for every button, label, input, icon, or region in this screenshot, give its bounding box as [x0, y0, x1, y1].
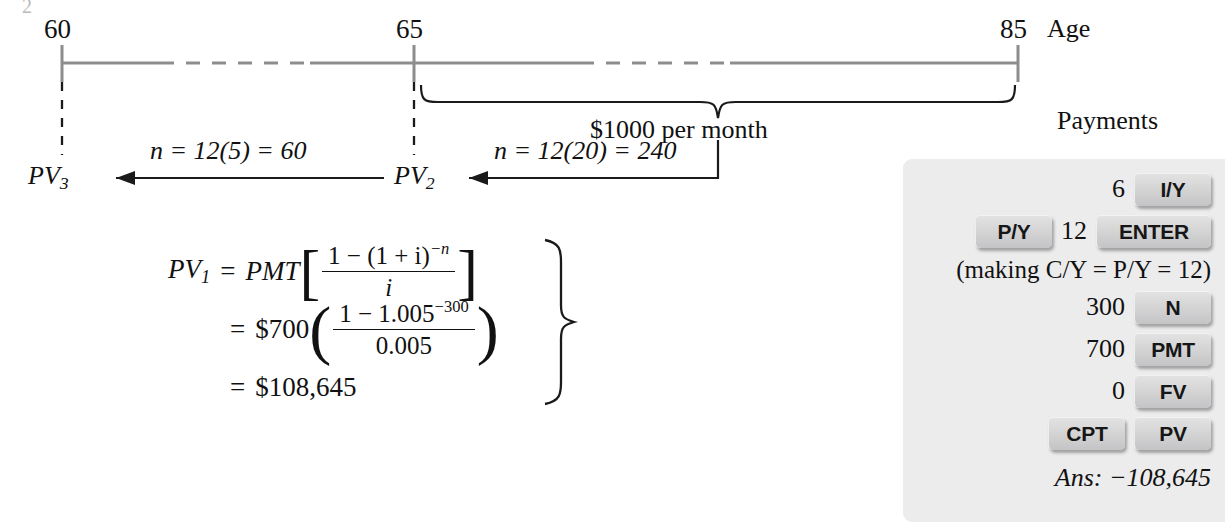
- fraction-1-numerator: 1 − (1 + i)−n: [322, 240, 455, 272]
- pv3-subscript: 3: [60, 173, 69, 193]
- calc-key-fv[interactable]: FV: [1134, 375, 1211, 408]
- calc-key-pmt[interactable]: PMT: [1134, 333, 1211, 366]
- calculator-rows: 6 I/Y P/Y 12 ENTER (making C/Y = P/Y = 1…: [956, 171, 1211, 491]
- tick-label-65: 65: [396, 16, 423, 43]
- formula-line-1: PV1 = PMT [ 1 − (1 + i)−n i ]: [168, 243, 499, 299]
- pv2-subscript: 2: [426, 173, 435, 193]
- formula-coefficient: $700: [255, 314, 309, 345]
- formula-line-2: = $700 ( 1 − 1.005−300 0.005 ): [168, 301, 499, 357]
- annotation-n-60: n = 12(5) = 60: [150, 138, 306, 164]
- formula-eq-1: =: [210, 256, 245, 287]
- arrow-to-pv2-head: [469, 171, 488, 185]
- formula-fraction-1: 1 − (1 + i)−n i: [322, 240, 455, 302]
- payments-label: Payments: [1057, 108, 1158, 134]
- formula-eq-2: =: [230, 314, 255, 345]
- fraction-2-numerator-text: 1 − 1.005: [339, 300, 434, 327]
- formula-brace: [545, 240, 574, 404]
- calc-value-n: 300: [1086, 294, 1125, 320]
- calc-note: (making C/Y = P/Y = 12): [956, 255, 1211, 283]
- fraction-2-denominator: 0.005: [370, 330, 438, 360]
- fraction-1-numerator-text: 1 − (1 + i): [328, 242, 430, 269]
- pv2-label: PV2: [394, 163, 435, 193]
- calc-value-pmt: 700: [1086, 336, 1125, 362]
- calc-key-iy[interactable]: I/Y: [1134, 173, 1211, 206]
- calc-row-pmt: 700 PMT: [1086, 331, 1211, 367]
- fraction-2-numerator: 1 − 1.005−300: [333, 298, 474, 330]
- calc-key-cpt[interactable]: CPT: [1048, 417, 1125, 450]
- formula-line-3: = $108,645: [168, 359, 499, 415]
- calc-key-py[interactable]: P/Y: [975, 215, 1052, 248]
- calc-value-rate: 6: [1112, 176, 1125, 202]
- axis-label-age: Age: [1047, 16, 1090, 42]
- calc-value-py: 12: [1061, 218, 1087, 244]
- calc-key-pv[interactable]: PV: [1134, 417, 1211, 450]
- calc-key-n[interactable]: N: [1134, 291, 1211, 324]
- formula-lhs: PV1: [168, 254, 210, 288]
- payments-brace: [421, 85, 1015, 118]
- formula-eq-3: =: [230, 372, 255, 403]
- calc-row-n: 300 N: [1086, 289, 1211, 325]
- formula-pmt: PMT: [245, 256, 299, 287]
- calc-row-compute: CPT PV: [1048, 415, 1211, 451]
- formula-lhs-subscript: 1: [201, 267, 210, 287]
- tick-label-85: 85: [1000, 16, 1027, 43]
- formula-fraction-2: 1 − 1.005−300 0.005: [333, 298, 474, 360]
- calc-row-interest: 6 I/Y: [1112, 171, 1211, 207]
- arrow-to-pv3-head: [116, 171, 135, 185]
- pv2-base: PV: [394, 161, 426, 190]
- formula-block: PV1 = PMT [ 1 − (1 + i)−n i ] = $700 ( 1…: [168, 243, 499, 415]
- figure-canvas: 2 60 65 85: [0, 0, 1225, 522]
- formula-result: $108,645: [255, 372, 356, 403]
- calc-row-fv: 0 FV: [1112, 373, 1211, 409]
- pv3-label: PV3: [28, 163, 69, 193]
- calculator-panel: 6 I/Y P/Y 12 ENTER (making C/Y = P/Y = 1…: [903, 159, 1225, 522]
- formula-lhs-base: PV: [168, 254, 201, 284]
- calc-value-fv: 0: [1112, 378, 1125, 404]
- calc-row-py: P/Y 12 ENTER: [975, 213, 1211, 249]
- fraction-1-exponent: −n: [430, 239, 449, 258]
- calc-key-enter[interactable]: ENTER: [1096, 215, 1211, 248]
- pv3-base: PV: [28, 161, 60, 190]
- annotation-n-240: n = 12(20) = 240: [494, 138, 676, 164]
- tick-label-60: 60: [44, 16, 71, 43]
- calc-answer: Ans: −108,645: [1055, 457, 1211, 491]
